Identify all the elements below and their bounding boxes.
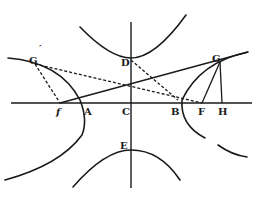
line-GH xyxy=(220,62,222,103)
hyperbola-right-branch xyxy=(182,52,248,138)
label-F: F xyxy=(198,106,205,117)
dashed-line-Gprime-f xyxy=(35,64,60,103)
label-f: f xyxy=(55,106,62,117)
hyperbola-right-branch-lower xyxy=(218,145,247,157)
label-H: H xyxy=(218,106,227,117)
dashed-line-D-B xyxy=(131,60,178,100)
label-B: B xyxy=(171,106,179,117)
label-C: C xyxy=(122,106,130,117)
conjugate-hyperbola-upper xyxy=(80,15,186,58)
hyperbola-diagram: G ′ G D f A C B F H E xyxy=(0,0,262,199)
label-E: E xyxy=(120,140,128,151)
hyperbola-left-branch xyxy=(5,58,85,180)
label-G: G xyxy=(212,53,221,64)
label-G-prime-mark: ′ xyxy=(39,43,42,54)
label-G-prime: G xyxy=(29,55,38,66)
label-A: A xyxy=(83,106,92,117)
dashed-line-Gprime-F xyxy=(35,64,202,103)
label-D: D xyxy=(121,57,130,68)
line-GF xyxy=(202,62,220,103)
conjugate-hyperbola-lower xyxy=(73,150,180,187)
